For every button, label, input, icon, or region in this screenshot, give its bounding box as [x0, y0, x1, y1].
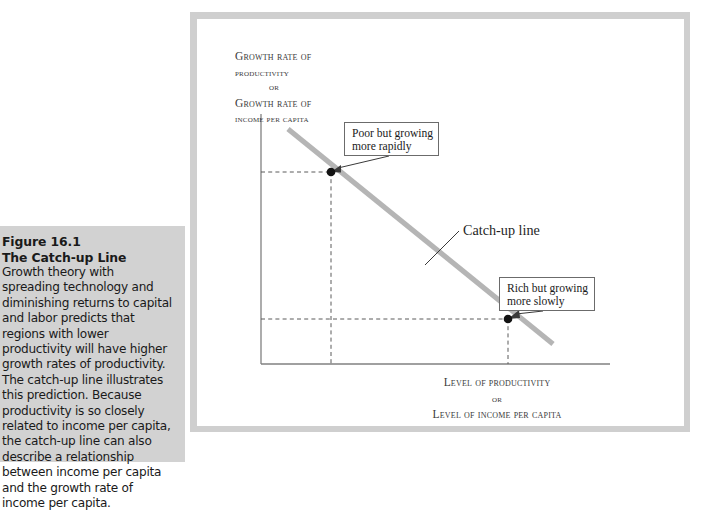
- figure-caption-block: Figure 16.1 The Catch-up Line Growth the…: [0, 226, 185, 462]
- y-axis-title-line1: Growth rate of: [235, 50, 311, 62]
- callout-rich-line1: Rich but growing: [507, 282, 588, 295]
- y-axis-title-line3: or: [235, 80, 311, 95]
- y-axis-title-line5: income per capita: [235, 113, 309, 124]
- y-axis-title-line2: productivity: [235, 67, 289, 78]
- x-axis-title: Level of productivity or Level of income…: [433, 374, 562, 422]
- leader-line-rich: [516, 311, 543, 314]
- figure-frame: Growth rate of productivity or Growth ra…: [190, 12, 690, 432]
- y-axis-title-line4: Growth rate of: [235, 97, 311, 109]
- leader-line-poor: [338, 156, 389, 168]
- x-axis-title-line3: Level of income per capita: [433, 408, 562, 420]
- catch-up-line-label: Catch-up line: [463, 222, 540, 239]
- data-point-rich: [504, 315, 513, 324]
- callout-box-poor: Poor but growing more rapidly: [344, 122, 439, 156]
- callout-poor-line1: Poor but growing: [352, 127, 433, 140]
- caption-figure-number: Figure 16.1: [2, 234, 175, 250]
- leader-line-catchup-label: [425, 231, 459, 265]
- callout-poor-line2: more rapidly: [352, 140, 412, 153]
- caption-figure-title: The Catch-up Line: [2, 250, 175, 266]
- x-axis-title-line2: or: [492, 393, 502, 404]
- callout-box-rich: Rich but growing more slowly: [499, 277, 595, 311]
- y-axis-title: Growth rate of productivity or Growth ra…: [235, 48, 311, 127]
- x-axis-title-line1: Level of productivity: [444, 376, 551, 388]
- callout-rich-line2: more slowly: [507, 295, 565, 308]
- caption-body-text: Growth theory with spreading technology …: [2, 265, 175, 512]
- figure-canvas: Growth rate of productivity or Growth ra…: [197, 19, 684, 426]
- data-point-poor: [327, 168, 336, 177]
